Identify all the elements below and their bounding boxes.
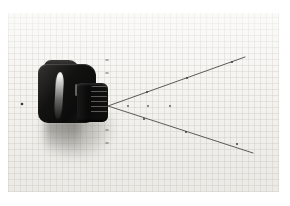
- fov-overlay: [0, 0, 290, 206]
- photograph: [0, 0, 290, 206]
